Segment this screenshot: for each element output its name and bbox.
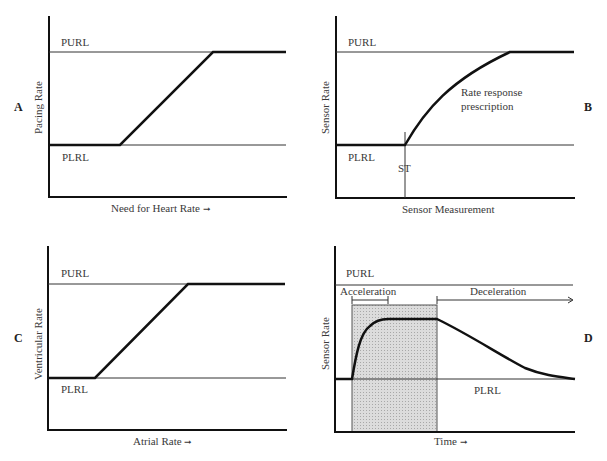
- plrl-label: PLRL: [61, 383, 88, 395]
- panel-c-graph: [0, 230, 300, 461]
- acceleration-label: Acceleration: [340, 285, 396, 297]
- purl-label: PURL: [348, 36, 376, 48]
- arrow-right-icon: ➞: [460, 437, 468, 447]
- y-axis-label: Sensor Rate: [319, 81, 331, 134]
- panel-c: PURL PLRL C Ventricular Rate Atrial Rate…: [0, 230, 300, 461]
- arrow-right-icon: ➞: [184, 437, 192, 447]
- x-axis-label-text: Time: [434, 435, 457, 447]
- purl-label: PURL: [61, 267, 89, 279]
- panel-a-graph: [0, 0, 300, 230]
- x-axis-label-text: Need for Heart Rate: [111, 202, 200, 214]
- x-axis-label: Time ➞: [434, 435, 468, 447]
- plrl-label: PLRL: [62, 151, 89, 163]
- plrl-label: PLRL: [348, 151, 375, 163]
- panel-letter-b: B: [584, 100, 592, 115]
- plrl-label: PLRL: [474, 384, 501, 396]
- y-axis-label: Sensor Rate: [319, 317, 331, 370]
- rate-response-annotation-line1: Rate response: [461, 86, 522, 98]
- deceleration-label: Deceleration: [470, 285, 526, 297]
- panel-d-graph: [300, 230, 607, 461]
- panel-b-graph: [300, 0, 607, 230]
- purl-label: PURL: [346, 267, 374, 279]
- panel-letter-d: D: [584, 331, 593, 346]
- x-axis-label: Atrial Rate ➞: [133, 435, 192, 447]
- x-axis-label-text: Atrial Rate: [133, 435, 182, 447]
- y-axis-label: Pacing Rate: [32, 81, 44, 134]
- x-axis-label: Need for Heart Rate ➞: [111, 202, 211, 214]
- st-label: ST: [398, 162, 411, 174]
- panel-letter-a: A: [14, 100, 23, 115]
- panel-a: PURL PLRL A Pacing Rate Need for Heart R…: [0, 0, 300, 230]
- arrow-right-icon: ➞: [203, 204, 211, 214]
- purl-label: PURL: [61, 36, 89, 48]
- x-axis-label: Sensor Measurement: [402, 203, 495, 215]
- rate-response-annotation-line2: prescription: [461, 100, 514, 112]
- panel-letter-c: C: [14, 331, 23, 346]
- y-axis-label: Ventricular Rate: [32, 308, 44, 380]
- panel-b: PURL PLRL ST Rate response prescription …: [300, 0, 607, 230]
- panel-d: PURL PLRL Acceleration Deceleration D Se…: [300, 230, 607, 461]
